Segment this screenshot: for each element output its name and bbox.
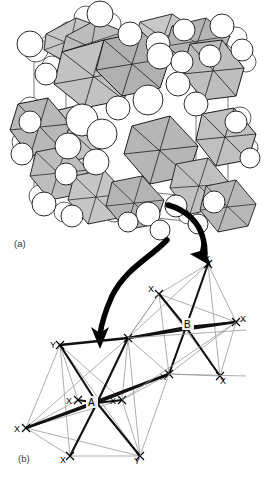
vertex-label-x-b-lower-right: X — [220, 376, 226, 386]
vertex-label-x-b-right: X — [240, 314, 246, 324]
panel-label-a: (a) — [14, 238, 26, 249]
vertex-label-y-bottom-right: Y — [134, 456, 140, 466]
vertex-label-x-a-right: X — [110, 396, 116, 406]
vertex-label-x-b-apex: X — [204, 254, 210, 264]
vertex-label-y-upper-left: Y — [50, 340, 56, 350]
figure-root: (a) (b) A B Y X X X X Y X X X X X — [0, 0, 264, 477]
vertex-label-x-lower-left: X — [14, 424, 20, 434]
vertex-label-x-b-upper-left: X — [148, 284, 154, 294]
crystal-structure-figure: (a) (b) A B Y X X X X Y X X X X X — [0, 0, 264, 477]
site-label-a: A — [88, 397, 95, 408]
panel-label-b: (b) — [18, 453, 30, 464]
vertex-label-x-a-left: X — [66, 396, 72, 406]
vertex-label-x-b-lower-left: X — [160, 372, 166, 382]
vertex-label-x-bottom: X — [60, 455, 66, 465]
site-label-b: B — [184, 319, 191, 330]
